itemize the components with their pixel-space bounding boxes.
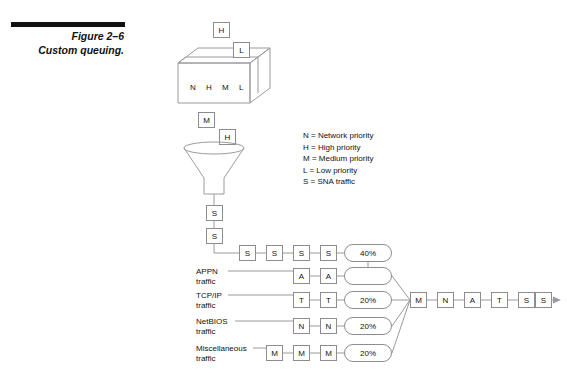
output-packet-0: M <box>410 292 427 308</box>
output-packet-4: S <box>518 292 535 308</box>
output-packet-1: N <box>437 292 454 308</box>
output-packet-5: S <box>535 292 552 308</box>
connector-graphic <box>0 0 567 379</box>
output-packet-3: T <box>491 292 508 308</box>
output-packet-2: A <box>464 292 481 308</box>
